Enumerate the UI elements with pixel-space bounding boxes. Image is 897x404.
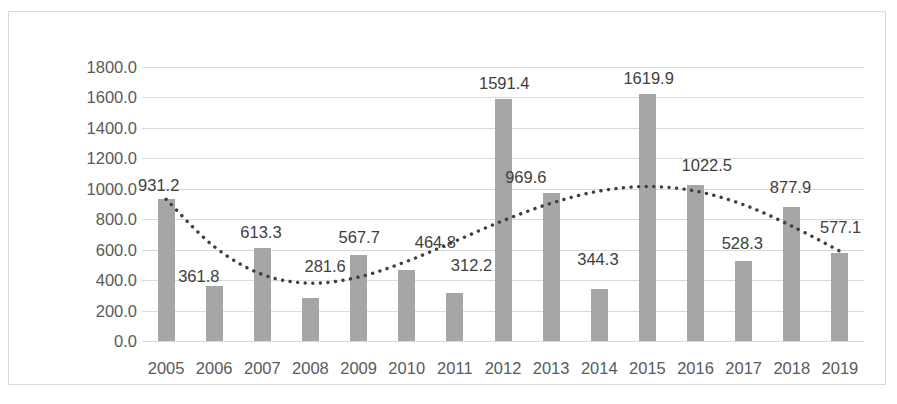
bar-2010[interactable] xyxy=(398,270,415,341)
y-axis-tick-label: 600.0 xyxy=(96,242,137,259)
plot-area xyxy=(142,67,864,341)
gridline xyxy=(142,67,864,68)
y-axis-tick-label: 1200.0 xyxy=(87,150,137,167)
bar-2018[interactable] xyxy=(783,207,800,341)
bar-2005[interactable] xyxy=(158,199,175,341)
data-label-2013: 969.6 xyxy=(505,169,546,186)
data-label-2016: 1022.5 xyxy=(682,157,732,174)
bar-2012[interactable] xyxy=(495,99,512,341)
bar-2019[interactable] xyxy=(831,253,848,341)
bar-2008[interactable] xyxy=(302,298,319,341)
data-label-2006: 361.8 xyxy=(178,268,219,285)
data-label-2011: 312.2 xyxy=(451,257,492,274)
data-label-2010: 464.8 xyxy=(415,234,456,251)
data-label-2018: 877.9 xyxy=(770,179,811,196)
data-label-2014: 344.3 xyxy=(577,251,618,268)
y-axis-tick-label: 1800.0 xyxy=(87,59,137,76)
y-axis-tick-label: 800.0 xyxy=(96,211,137,228)
bar-2014[interactable] xyxy=(591,289,608,341)
y-axis-tick-label: 400.0 xyxy=(96,272,137,289)
data-label-2017: 528.3 xyxy=(722,235,763,252)
data-label-2015: 1619.9 xyxy=(623,70,673,87)
y-axis-tick-label: 200.0 xyxy=(96,303,137,320)
y-axis-tick-label: 1600.0 xyxy=(87,89,137,106)
data-label-2019: 577.1 xyxy=(820,219,861,236)
bar-2011[interactable] xyxy=(446,293,463,341)
bar-2016[interactable] xyxy=(687,185,704,341)
y-axis-tick-label: 1000.0 xyxy=(87,181,137,198)
data-label-2008: 281.6 xyxy=(304,258,345,275)
data-label-2005: 931.2 xyxy=(138,177,179,194)
bar-2007[interactable] xyxy=(254,248,271,341)
gridline xyxy=(142,341,864,342)
bar-2015[interactable] xyxy=(639,94,656,341)
bar-2013[interactable] xyxy=(543,193,560,341)
y-axis-tick-label: 1400.0 xyxy=(87,120,137,137)
bar-2006[interactable] xyxy=(206,286,223,341)
data-label-2007: 613.3 xyxy=(240,224,281,241)
chart-frame: 1800.01600.01400.01200.01000.0800.0600.0… xyxy=(8,11,886,385)
y-axis-tick-label: 0.0 xyxy=(114,333,137,350)
y-axis-tick-labels: 1800.01600.01400.01200.01000.0800.0600.0… xyxy=(9,12,137,404)
x-axis-tick-label-2019: 2019 xyxy=(810,360,870,377)
bar-2009[interactable] xyxy=(350,255,367,341)
data-label-2012: 1591.4 xyxy=(479,75,529,92)
data-label-2009: 567.7 xyxy=(339,229,380,246)
bar-2017[interactable] xyxy=(735,261,752,341)
